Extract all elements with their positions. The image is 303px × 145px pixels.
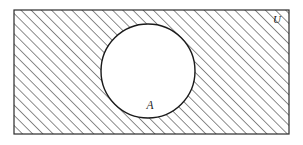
venn-diagram-figure: U A <box>0 0 303 145</box>
set-a-label: A <box>145 99 154 111</box>
venn-diagram-canvas: U A <box>0 0 303 145</box>
complement-region-shading <box>14 10 289 134</box>
universal-set-label: U <box>273 13 282 25</box>
